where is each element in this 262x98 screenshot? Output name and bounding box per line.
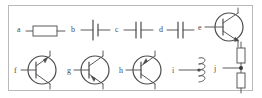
symbol-cell-a: a xyxy=(17,20,65,42)
symbol-cell-i: i xyxy=(172,52,214,90)
symbol-label-g: g xyxy=(67,67,71,75)
symbol-cell-j: j xyxy=(214,48,256,92)
symbol-label-i: i xyxy=(172,67,174,75)
inductor-coil-icon xyxy=(179,52,213,88)
symbol-cell-d: d xyxy=(159,16,197,46)
symbol-label-j: j xyxy=(214,65,216,73)
figure-root: a b c xyxy=(0,0,262,98)
capacitor-icon-c xyxy=(124,16,154,44)
voltage-divider-icon xyxy=(223,42,255,94)
figure-frame-border: a b c xyxy=(8,5,253,91)
pnp-transistor-icon-h xyxy=(126,50,172,90)
battery-cell-icon xyxy=(81,16,111,44)
symbol-label-d: d xyxy=(159,26,163,34)
pnp-transistor-icon-g xyxy=(74,50,120,90)
symbol-cell-h: h xyxy=(119,50,173,92)
symbol-label-e: e xyxy=(198,24,202,32)
symbol-cell-g: g xyxy=(67,50,121,92)
symbol-label-b: b xyxy=(71,26,75,34)
capacitor-icon-d xyxy=(167,16,195,44)
symbol-label-c: c xyxy=(115,26,119,34)
symbol-label-a: a xyxy=(17,26,21,34)
symbol-label-f: f xyxy=(14,67,17,75)
symbol-cell-b: b xyxy=(71,16,111,46)
symbol-label-h: h xyxy=(119,67,123,75)
symbol-cell-c: c xyxy=(115,16,155,46)
resistor-icon xyxy=(26,23,66,39)
npn-transistor-icon-f xyxy=(21,50,67,90)
symbol-cell-f: f xyxy=(14,50,68,92)
